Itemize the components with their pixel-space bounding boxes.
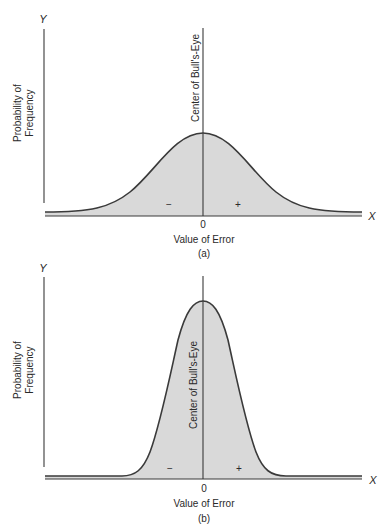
panel-a-zero-tick: 0 — [200, 219, 206, 230]
panel-b-zero-tick: 0 — [201, 483, 207, 494]
panel-a-y-title-line1: Probability of — [12, 84, 23, 142]
panel-b-y-title-line1: Probability of — [12, 341, 23, 399]
error-distribution-diagram: Y X Probability of Frequency Center of B… — [0, 0, 390, 532]
panel-a-plus-sign: + — [235, 199, 241, 210]
panel-a-caption: (a) — [198, 248, 210, 259]
panel-b-x-axis-label: X — [368, 474, 377, 486]
panel-b-x-title: Value of Error — [174, 498, 236, 509]
panel-b-center-label: Center of Bull's-Eye — [188, 341, 199, 429]
panel-b-y-axis-label: Y — [39, 262, 47, 274]
panel-a-y-axis-label: Y — [39, 13, 47, 25]
panel-a-minus-sign: − — [166, 199, 172, 210]
panel-a-y-title-line2: Frequency — [24, 89, 35, 136]
panel-b-y-title-line2: Frequency — [24, 346, 35, 393]
panel-b: Y X Probability of Frequency Center of B… — [12, 262, 377, 524]
panel-a-center-label: Center of Bull's-Eye — [190, 34, 201, 122]
panel-b-minus-sign: − — [167, 463, 173, 474]
panel-b-plus-sign: + — [236, 463, 242, 474]
panel-a-x-title: Value of Error — [174, 234, 236, 245]
panel-a: Y X Probability of Frequency Center of B… — [12, 13, 376, 259]
panel-a-x-axis-label: X — [367, 210, 376, 222]
panel-b-caption: (b) — [198, 513, 210, 524]
